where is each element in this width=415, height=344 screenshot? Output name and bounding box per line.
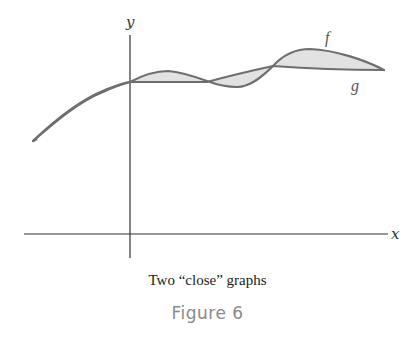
figure-number-label: Figure 6	[0, 303, 415, 323]
figure: y x f g Two “close” graphs Figure 6	[0, 0, 415, 344]
plot-area: y x f g	[0, 0, 415, 344]
figure-caption: Two “close” graphs	[0, 272, 415, 289]
curve-f-label: f	[325, 29, 332, 47]
curve-g	[33, 66, 384, 141]
curve-g-label: g	[351, 77, 359, 95]
x-axis-label: x	[391, 225, 400, 243]
y-axis-label: y	[125, 13, 135, 31]
